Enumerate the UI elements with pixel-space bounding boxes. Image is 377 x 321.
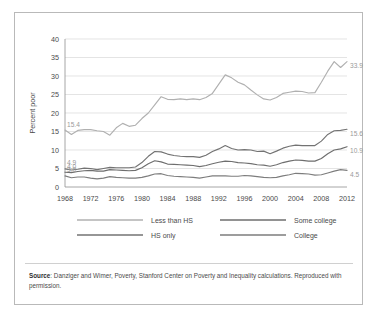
note-divider xyxy=(25,263,353,264)
y-tick-label: 40 xyxy=(51,35,59,44)
y-tick-labels: 0510152025303540 xyxy=(51,35,59,192)
start-value-label: 15.4 xyxy=(67,121,80,128)
x-tick-label: 1980 xyxy=(134,194,150,203)
legend-label: College xyxy=(294,232,318,240)
source-label: Source xyxy=(29,272,50,279)
x-tick-label: 2012 xyxy=(339,194,355,203)
end-value-label: 10.9 xyxy=(350,147,363,154)
x-tick-label: 1984 xyxy=(160,194,176,203)
x-tick-label: 1992 xyxy=(211,194,227,203)
poverty-by-education-line-chart: 0510152025303540 19681972197619801984198… xyxy=(15,13,364,263)
y-tick-label: 10 xyxy=(51,146,59,155)
y-tick-label: 5 xyxy=(55,164,59,173)
chart-legend: Less than HSSome collegeHS onlyCollege xyxy=(77,217,337,240)
y-tick-label: 20 xyxy=(51,109,59,118)
x-tick-label: 1996 xyxy=(236,194,252,203)
series-lines xyxy=(65,62,347,179)
series-line xyxy=(65,62,347,136)
legend-label: Some college xyxy=(294,217,337,225)
y-tick-label: 0 xyxy=(55,183,59,192)
end-value-label: 4.5 xyxy=(350,171,359,178)
start-value-label: 3.0 xyxy=(67,166,76,173)
x-tick-label: 2004 xyxy=(288,194,304,203)
y-axis-title: Percent poor xyxy=(28,92,37,134)
x-tick-label: 2008 xyxy=(313,194,329,203)
end-value-label: 33.9 xyxy=(350,62,363,69)
x-tick-label: 1972 xyxy=(83,194,99,203)
x-tick-label: 1976 xyxy=(108,194,124,203)
x-tick-label: 1988 xyxy=(185,194,201,203)
source-text: : Danziger and Wimer, Poverty, Stanford … xyxy=(29,272,341,289)
y-tick-label: 15 xyxy=(51,127,59,136)
endpoint-value-labels: 15.433.94.915.64.010.93.04.5 xyxy=(67,62,363,178)
x-tick-labels: 1968197219761980198419881992199620002004… xyxy=(57,194,355,203)
legend-label: HS only xyxy=(151,232,176,240)
series-line xyxy=(65,170,347,179)
y-tick-label: 25 xyxy=(51,90,59,99)
y-tick-label: 30 xyxy=(51,72,59,81)
x-tick-label: 2000 xyxy=(262,194,278,203)
end-value-label: 15.6 xyxy=(350,130,363,137)
series-line xyxy=(65,129,347,170)
y-tick-label: 35 xyxy=(51,53,59,62)
gridlines xyxy=(65,39,347,169)
x-tick-label: 1968 xyxy=(57,194,73,203)
legend-label: Less than HS xyxy=(151,217,193,224)
source-note: Source: Danziger and Wimer, Poverty, Sta… xyxy=(29,271,353,291)
figure-frame: 0510152025303540 19681972197619801984198… xyxy=(14,12,363,305)
